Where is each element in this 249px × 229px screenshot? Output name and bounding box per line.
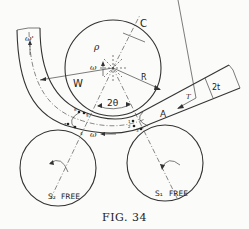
left-roller-s2-circle: [20, 130, 96, 206]
label-center-c: C: [140, 18, 147, 29]
arrow-2theta-left: [97, 103, 102, 108]
label-rho: ρ: [93, 42, 100, 52]
label-omega-pipe: ω: [90, 130, 97, 139]
rotation-arc-s1: [162, 161, 180, 168]
figure-caption: FIG. 34: [0, 211, 249, 224]
label-tension-T: T: [186, 93, 192, 101]
label-roller-W: W: [73, 78, 83, 89]
contact-points: [67, 111, 143, 131]
centerline-right: [113, 68, 178, 200]
label-free-left: FREE: [61, 192, 80, 201]
contact-region-left: [71, 112, 80, 128]
arrow-2theta-right: [126, 102, 131, 107]
label-thickness-2t: 2t: [212, 83, 220, 92]
omega-roller-arrow: [101, 61, 105, 66]
label-angle-2theta: 2θ: [107, 98, 119, 108]
roller-bending-diagram: 6 5 7 4 1 2 3 C ρ R ω ω' W 2θ A 2t T ω S…: [0, 0, 249, 229]
arrow-rho: [40, 77, 46, 81]
center-crosshair: [100, 33, 145, 81]
tension-arrowhead: [177, 104, 184, 109]
label-roller-s1: S₁: [155, 189, 163, 198]
tension-arrow-line: [178, 0, 196, 98]
label-omega-roller: ω: [90, 63, 97, 72]
label-omega-prime: ω': [25, 34, 34, 43]
label-R: R: [141, 73, 147, 82]
point-label-6: 6: [74, 107, 77, 112]
label-section-A: A: [160, 109, 167, 119]
label-free-right: FREE: [169, 189, 188, 198]
point-label-7: 7: [64, 122, 67, 127]
centerline-c: [113, 15, 140, 68]
radius-R-line: [113, 68, 160, 89]
point-label-2: 2: [128, 124, 131, 129]
label-roller-s2: S₂: [48, 192, 56, 201]
